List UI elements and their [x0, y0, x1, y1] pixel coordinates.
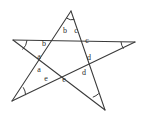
arc-bottom-right-point [93, 94, 99, 98]
angle-label-d-lower: d [82, 69, 86, 77]
star-edge-right-to-bottom-left [12, 42, 135, 101]
angle-label-b-left: b [42, 40, 46, 48]
star-figure-svg [0, 0, 141, 121]
angle-label-a-upper: a [37, 53, 41, 61]
star-edge-top-to-bottom-left [12, 11, 71, 101]
angle-label-e-left: e [44, 75, 48, 83]
angle-label-a-lower: a [37, 66, 41, 74]
angle-label-e-right: e [62, 76, 66, 84]
angle-label-c-upper: c [74, 27, 78, 35]
angle-label-b-upper: b [63, 27, 67, 35]
star-edge-left-to-bottom-right [13, 40, 105, 110]
arc-bottom-left-point [23, 87, 25, 95]
angle-label-c-right: c [85, 37, 89, 45]
angle-label-d-upper: d [87, 54, 91, 62]
star-angle-diagram: b c c b a a d d e e [0, 0, 141, 121]
star-edge-left-to-right [13, 40, 135, 42]
